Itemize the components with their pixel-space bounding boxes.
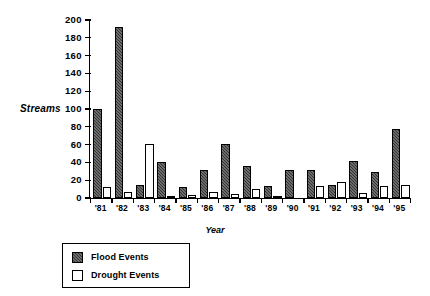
plot-area: [90, 20, 410, 198]
x-tick-label: '88: [239, 203, 260, 213]
bar-flood-81: [93, 109, 102, 198]
bar-flood-95: [392, 129, 401, 198]
y-tick-label: 20: [56, 174, 82, 185]
x-tick-label: '95: [389, 203, 410, 213]
legend-item-drought[interactable]: Drought Events: [72, 267, 159, 283]
bar-drought-94: [380, 186, 389, 198]
bar-drought-86: [209, 192, 218, 198]
y-tick-label: 100: [56, 103, 82, 114]
bar-drought-85: [188, 195, 197, 198]
bar-drought-84: [167, 196, 176, 198]
y-tick-label: 120: [56, 85, 82, 96]
bar-flood-90: [285, 170, 294, 198]
bar-drought-92: [337, 182, 346, 198]
bar-drought-82: [124, 192, 133, 198]
bar-flood-93: [349, 161, 358, 198]
bar-flood-91: [307, 170, 316, 198]
x-tick-label: '89: [261, 203, 282, 213]
x-tick-label: '84: [154, 203, 175, 213]
bar-flood-84: [157, 162, 166, 198]
chart-legend: Flood Events Drought Events: [62, 243, 190, 288]
x-tick-label: '93: [346, 203, 367, 213]
bar-drought-81: [103, 187, 112, 198]
x-tick-label: '91: [303, 203, 324, 213]
bar-drought-91: [316, 186, 325, 198]
bar-flood-94: [371, 172, 380, 198]
x-tick-label: '87: [218, 203, 239, 213]
legend-label-drought: Drought Events: [91, 270, 159, 280]
y-tick-label: 200: [56, 14, 82, 25]
bar-flood-89: [264, 186, 273, 198]
x-tick-label: '86: [197, 203, 218, 213]
streams-flood-drought-bar-chart: Streams 020406080100120140160180200 '81'…: [0, 0, 430, 296]
x-axis-title: Year: [0, 225, 430, 235]
flood-swatch-icon: [72, 252, 83, 263]
x-tick-label: '85: [175, 203, 196, 213]
y-tick-label: 0: [56, 192, 82, 203]
y-tick-label: 40: [56, 156, 82, 167]
x-tick-label: '92: [325, 203, 346, 213]
y-axis-title: Streams: [20, 103, 61, 114]
y-tick-label: 180: [56, 32, 82, 43]
x-tick-label: '82: [111, 203, 132, 213]
bar-drought-87: [231, 194, 240, 198]
bar-flood-88: [243, 166, 252, 198]
y-tick-label: 140: [56, 67, 82, 78]
x-tick-label: '90: [282, 203, 303, 213]
legend-item-flood[interactable]: Flood Events: [72, 249, 149, 265]
bar-flood-85: [179, 187, 188, 198]
bar-flood-82: [115, 27, 124, 198]
bar-flood-87: [221, 144, 230, 198]
x-tick-mark: [410, 198, 411, 203]
legend-label-flood: Flood Events: [91, 252, 149, 262]
bar-drought-95: [401, 185, 410, 198]
y-tick-label: 80: [56, 121, 82, 132]
bar-flood-86: [200, 170, 209, 198]
x-tick-label: '94: [367, 203, 388, 213]
bar-drought-89: [273, 196, 282, 198]
drought-swatch-icon: [72, 270, 83, 281]
bar-drought-83: [145, 144, 154, 198]
bar-drought-88: [252, 189, 261, 198]
bar-drought-93: [359, 193, 368, 198]
x-tick-label: '83: [133, 203, 154, 213]
y-tick-label: 60: [56, 139, 82, 150]
x-tick-label: '81: [90, 203, 111, 213]
bar-flood-83: [136, 185, 145, 198]
y-tick-label: 160: [56, 50, 82, 61]
bar-flood-92: [328, 185, 337, 198]
